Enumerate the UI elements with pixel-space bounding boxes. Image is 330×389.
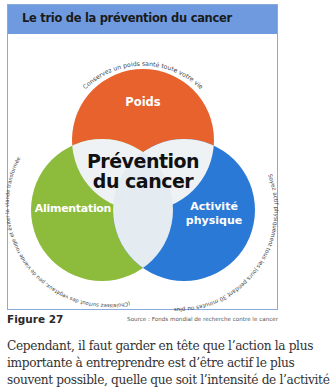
label-activite-line1: Activité	[190, 200, 238, 213]
venn-diagram: Conservez un poids santé toute votre vie…	[0, 0, 286, 312]
label-poids: Poids	[125, 95, 161, 109]
center-label-line1: Prévention	[87, 150, 199, 172]
body-line-1: Cependant, il faut garder en tête que l’…	[7, 338, 281, 355]
label-alimentation: Alimentation	[35, 202, 111, 215]
figure-number: Figure 27	[7, 313, 63, 325]
label-activite-line2: physique	[186, 214, 242, 227]
body-line-3: souvent possible, quelle que soit l’inte…	[7, 372, 281, 389]
body-line-2: importante à entreprendre est d’être act…	[7, 355, 281, 372]
body-paragraph: Cependant, il faut garder en tête que l’…	[7, 338, 281, 389]
figure-source: Source : Fonds mondial de recherche cont…	[127, 316, 278, 322]
center-label-line2: du cancer	[93, 170, 195, 192]
figure-caption: Figure 27 Source : Fonds mondial de rech…	[7, 313, 278, 329]
